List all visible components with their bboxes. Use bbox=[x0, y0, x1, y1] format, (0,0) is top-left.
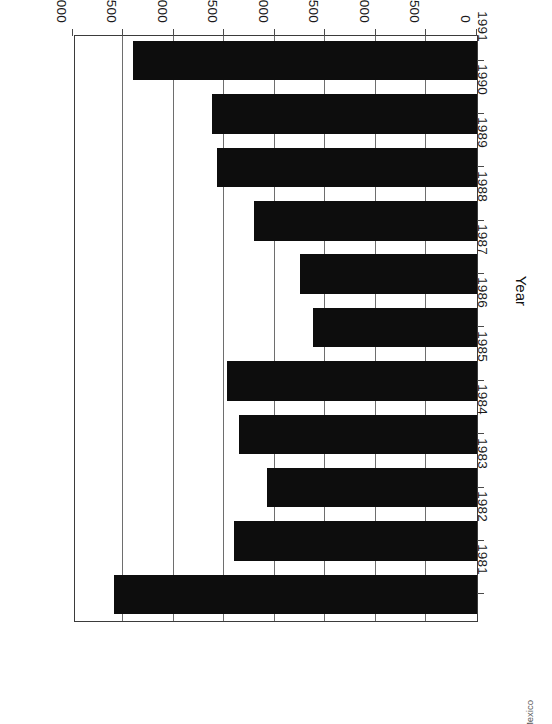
category-axis-tick bbox=[477, 327, 484, 328]
value-axis-tick bbox=[72, 29, 73, 36]
chart-figure: 05001000150020002500300035004000 1981198… bbox=[0, 0, 552, 724]
category-axis-tick bbox=[477, 433, 484, 434]
bar-slot bbox=[75, 408, 477, 461]
bar bbox=[133, 41, 477, 80]
category-axis-tick bbox=[477, 487, 484, 488]
bar bbox=[254, 201, 477, 240]
bar bbox=[239, 415, 477, 454]
category-axis-tick-label: 1988 bbox=[475, 171, 490, 202]
category-axis-tick bbox=[477, 113, 484, 114]
category-axis-tick bbox=[477, 380, 484, 381]
value-axis-tick bbox=[224, 29, 225, 36]
category-axis-tick-label: 1981 bbox=[475, 544, 490, 575]
value-axis-tick-label: 4000 bbox=[54, 0, 69, 23]
category-axis-tick bbox=[477, 540, 484, 541]
category-axis-tick-label: 1987 bbox=[475, 224, 490, 255]
bar-slot bbox=[75, 87, 477, 140]
bar bbox=[114, 575, 477, 614]
bar bbox=[227, 361, 477, 400]
value-axis-tick bbox=[426, 29, 427, 36]
bar-slot bbox=[75, 568, 477, 621]
bar-slot bbox=[75, 354, 477, 407]
bar-slot bbox=[75, 194, 477, 247]
bar bbox=[267, 468, 477, 507]
category-axis-tick-label: 1991 bbox=[475, 11, 490, 42]
bar bbox=[217, 148, 477, 187]
category-axis-tick bbox=[477, 593, 484, 594]
category-axis-tick-label: 1985 bbox=[475, 331, 490, 362]
value-axis-tick-label: 500 bbox=[408, 0, 423, 23]
value-axis-tick-label: 1000 bbox=[357, 0, 372, 23]
plot-area bbox=[74, 35, 478, 622]
value-axis-tick-label: 3000 bbox=[155, 0, 170, 23]
category-axis-title: Year bbox=[513, 276, 530, 306]
bar-slot bbox=[75, 514, 477, 567]
bar-slot bbox=[75, 461, 477, 514]
bar-slot bbox=[75, 247, 477, 300]
bar-slot bbox=[75, 141, 477, 194]
rotated-plot-container: 05001000150020002500300035004000 1981198… bbox=[0, 0, 552, 724]
category-axis-tick bbox=[477, 166, 484, 167]
category-axis-tick-label: 1989 bbox=[475, 118, 490, 149]
value-axis-tick-label: 1500 bbox=[307, 0, 322, 23]
bar bbox=[300, 254, 477, 293]
bar bbox=[313, 308, 477, 347]
bar bbox=[234, 521, 477, 560]
bar-series bbox=[75, 36, 477, 621]
category-axis-tick-label: 1982 bbox=[475, 491, 490, 522]
category-axis-tick bbox=[477, 60, 484, 61]
value-axis-tick bbox=[123, 29, 124, 36]
category-axis-tick bbox=[477, 220, 484, 221]
value-axis-tick bbox=[325, 29, 326, 36]
category-axis-tick-label: 1986 bbox=[475, 278, 490, 309]
value-axis-tick-label: 2500 bbox=[206, 0, 221, 23]
source-note: Source: Bank of Mexico bbox=[524, 700, 535, 724]
bar-slot bbox=[75, 301, 477, 354]
category-axis-tick-label: 1990 bbox=[475, 64, 490, 95]
value-axis-tick-label: 2000 bbox=[256, 0, 271, 23]
category-axis-tick-label: 1984 bbox=[475, 384, 490, 415]
value-axis-tick bbox=[375, 29, 376, 36]
value-axis-tick-label: 3500 bbox=[105, 0, 120, 23]
bar-slot bbox=[75, 34, 477, 87]
value-axis-tick-label: 0 bbox=[458, 15, 473, 23]
value-axis-tick bbox=[274, 29, 275, 36]
value-axis-tick bbox=[173, 29, 174, 36]
category-axis-tick-label: 1983 bbox=[475, 438, 490, 469]
category-axis-tick bbox=[477, 273, 484, 274]
bar bbox=[212, 94, 477, 133]
